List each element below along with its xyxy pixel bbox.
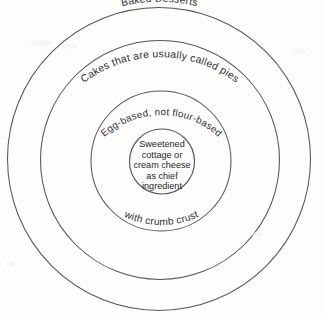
label-core-circle: Sweetened cottage or cream cheese as chi… (133, 139, 190, 191)
concentric-circles-svg: Baked Desserts Cakes that are usually ca… (0, 0, 324, 317)
core-line-3: cream cheese (133, 160, 190, 170)
core-line-2: cottage or (142, 150, 182, 160)
label-second-ring: Cakes that are usually called pies (79, 48, 242, 84)
core-line-4: as chief (146, 171, 178, 181)
core-line-1: Sweetened (139, 139, 185, 149)
venn-diagram: Baked Desserts Cakes that are usually ca… (0, 0, 324, 317)
core-line-5: ingredient (142, 181, 182, 191)
label-third-ring-secondary: with crumb crust (122, 208, 200, 227)
label-third-ring: Egg-based, not flour-based (99, 106, 225, 139)
